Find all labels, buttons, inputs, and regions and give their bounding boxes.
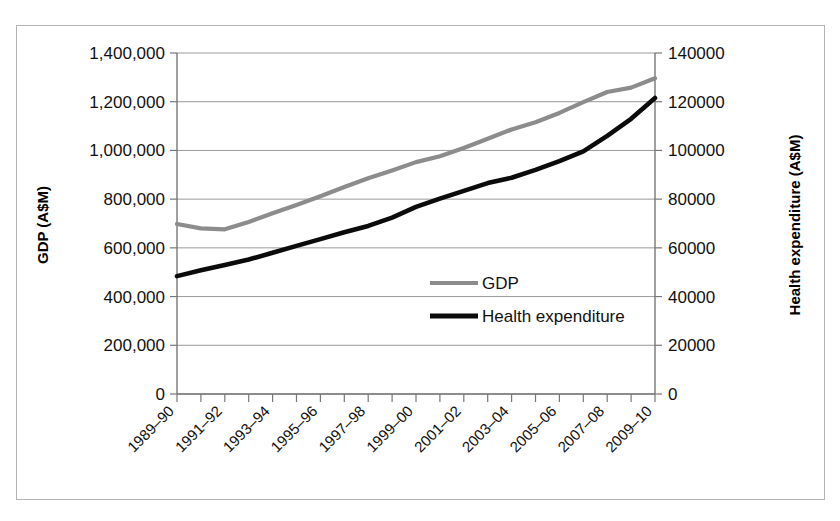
x-axis-tick-label: 2009–10: [602, 402, 655, 455]
legend-label-gdp: GDP: [482, 274, 519, 293]
left-axis-tick-label: 800,000: [104, 190, 165, 209]
x-axis-tick-label: 1999–00: [363, 402, 416, 455]
right-axis-tick-label: 20000: [668, 336, 715, 355]
line-chart: 0200,000400,000600,000800,0001,000,0001,…: [0, 0, 840, 521]
x-axis-tick-label: 1989–90: [124, 402, 177, 455]
right-axis-tick-label: 60000: [668, 239, 715, 258]
x-axis-tick-label: 2003–04: [458, 402, 511, 455]
right-axis-tick-label: 40000: [668, 288, 715, 307]
right-axis-title: Health expenditure (A$M): [786, 135, 803, 316]
x-axis-tick-label: 1993–94: [219, 402, 272, 455]
left-axis-tick-label: 400,000: [104, 288, 165, 307]
x-axis-tick-label: 2001–02: [411, 402, 464, 455]
x-axis-tick-label: 2007–08: [554, 402, 607, 455]
legend-label-health-expenditure: Health expenditure: [482, 307, 625, 326]
x-axis-tick-label: 1997–98: [315, 402, 368, 455]
right-axis-tick-label: 0: [668, 385, 677, 404]
left-axis-tick-label: 200,000: [104, 336, 165, 355]
right-axis-tick-label: 140000: [668, 44, 725, 63]
left-axis-tick-label: 0: [156, 385, 165, 404]
right-axis-tick-label: 100000: [668, 141, 725, 160]
x-axis-tick-label: 1995–96: [267, 402, 320, 455]
right-axis-tick-label: 120000: [668, 93, 725, 112]
left-axis-tick-label: 1,400,000: [89, 44, 165, 63]
left-axis-tick-label: 1,200,000: [89, 93, 165, 112]
x-axis-tick-label: 2005–06: [506, 402, 559, 455]
left-axis-tick-label: 600,000: [104, 239, 165, 258]
right-axis-tick-label: 80000: [668, 190, 715, 209]
left-axis-tick-label: 1,000,000: [89, 141, 165, 160]
chart-figure: 0200,000400,000600,000800,0001,000,0001,…: [0, 0, 840, 521]
series-line-health-expenditure: [177, 98, 655, 276]
x-axis-tick-label: 1991–92: [172, 402, 225, 455]
left-axis-title: GDP (A$M): [34, 186, 51, 264]
